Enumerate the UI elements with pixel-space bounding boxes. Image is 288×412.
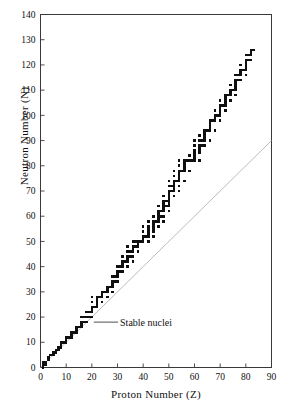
data-point: [116, 265, 119, 268]
data-point: [75, 326, 78, 329]
data-point: [98, 296, 101, 299]
data-point: [178, 180, 181, 183]
data-point: [239, 64, 242, 67]
data-point: [132, 255, 135, 258]
data-point: [162, 200, 165, 203]
data-point: [193, 154, 196, 157]
data-point: [188, 170, 191, 173]
data-point: [96, 296, 99, 299]
data-point: [91, 311, 94, 314]
data-point: [134, 240, 137, 243]
data-point: [70, 331, 73, 334]
data-point: [44, 361, 47, 364]
data-point: [119, 265, 122, 268]
data-point: [224, 101, 227, 104]
data-point: [245, 66, 248, 69]
data-point: [250, 49, 253, 52]
data-point: [52, 354, 55, 357]
data-point: [216, 114, 219, 117]
x-tick-label: 50: [164, 372, 174, 382]
data-point: [132, 250, 135, 253]
data-point: [214, 109, 217, 112]
data-point: [242, 69, 245, 72]
data-point: [142, 225, 145, 228]
data-point: [75, 328, 78, 331]
data-point: [234, 81, 237, 84]
data-point: [162, 205, 165, 208]
x-tick-label: 40: [138, 372, 148, 382]
data-point: [96, 306, 99, 309]
data-point: [47, 359, 50, 362]
data-point: [70, 336, 73, 339]
data-point: [188, 154, 191, 157]
data-point: [165, 200, 168, 203]
data-point: [116, 280, 119, 283]
data-point: [78, 326, 81, 329]
data-point: [198, 147, 201, 150]
data-point: [60, 344, 63, 347]
data-point: [114, 280, 117, 283]
data-point: [211, 119, 214, 122]
data-point: [201, 139, 204, 142]
data-point: [111, 286, 114, 289]
data-point: [142, 230, 145, 233]
data-point: [219, 114, 222, 117]
data-point: [168, 190, 171, 193]
x-axis-label: Proton Number (Z): [40, 388, 272, 400]
data-point: [157, 205, 160, 208]
data-point: [198, 152, 201, 155]
data-point: [152, 230, 155, 233]
data-point: [209, 139, 212, 142]
data-point: [106, 288, 109, 291]
data-point: [219, 119, 222, 122]
data-point: [157, 212, 160, 215]
y-tick-label: 20: [26, 312, 36, 322]
data-point: [224, 109, 227, 112]
y-axis-label: Neutron Number (N): [18, 66, 30, 206]
data-point: [132, 260, 135, 263]
y-tick-label: 30: [26, 287, 36, 297]
y-tick-label: 10: [26, 337, 36, 347]
data-point: [47, 356, 50, 359]
data-point: [234, 89, 237, 92]
data-point: [91, 296, 94, 299]
x-tick-label: 20: [87, 372, 97, 382]
x-tick-label: 70: [215, 372, 225, 382]
data-point: [173, 187, 176, 190]
data-point: [168, 200, 171, 203]
data-point: [126, 265, 129, 268]
chart-svg: 0102030405060708090100110120130140 01020…: [0, 0, 288, 412]
data-point: [173, 190, 176, 193]
data-point: [247, 54, 250, 57]
data-point: [121, 255, 124, 258]
data-point: [132, 240, 135, 243]
data-point: [42, 361, 45, 364]
data-point: [214, 114, 217, 117]
data-point: [183, 162, 186, 165]
data-point: [111, 280, 114, 283]
data-point: [49, 354, 52, 357]
data-point: [165, 205, 168, 208]
data-point: [42, 364, 45, 367]
x-tick-label: 60: [190, 372, 200, 382]
data-point: [126, 245, 129, 248]
data-point: [152, 235, 155, 238]
data-point: [157, 220, 160, 223]
data-point: [80, 326, 83, 329]
data-point: [152, 215, 155, 218]
data-point: [193, 152, 196, 155]
data-point: [247, 59, 250, 62]
data-point: [101, 301, 104, 304]
data-point: [221, 104, 224, 107]
data-point: [157, 217, 160, 220]
data-point: [234, 94, 237, 97]
x-tick-label: 80: [241, 372, 251, 382]
y-tick-label: 0: [31, 363, 36, 373]
data-point: [152, 228, 155, 231]
data-point: [142, 235, 145, 238]
data-point: [137, 245, 140, 248]
data-point: [147, 220, 150, 223]
data-point: [65, 336, 68, 339]
data-point: [183, 180, 186, 183]
data-point: [245, 64, 248, 67]
